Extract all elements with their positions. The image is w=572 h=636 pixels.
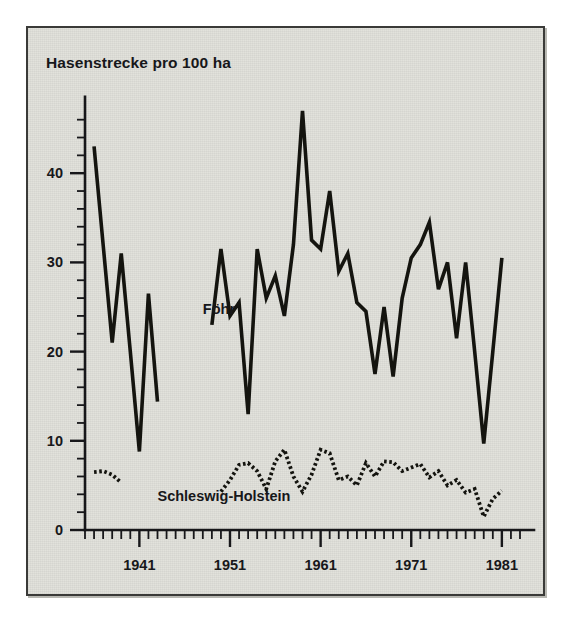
figure-root: Hasenstrecke pro 100 ha 0102030401941195…: [0, 0, 572, 636]
series-line-f-hr: [212, 111, 502, 444]
series-label-schleswig-holstein: Schleswig-Holstein: [158, 488, 291, 504]
series-line-schleswig-holstein: [94, 471, 121, 483]
y-tick-label: 0: [55, 522, 63, 538]
x-tick-label: 1961: [304, 557, 336, 573]
y-tick-label: 30: [47, 254, 63, 270]
y-tick-label: 40: [47, 165, 63, 181]
y-tick-label: 20: [47, 344, 63, 360]
series-layer: [94, 111, 502, 517]
chart-frame: Hasenstrecke pro 100 ha 0102030401941195…: [26, 26, 545, 596]
series-label-f-hr: Föhr: [203, 301, 236, 317]
series-line-schleswig-holstein: [221, 450, 502, 517]
x-tick-label: 1981: [486, 557, 518, 573]
x-tick-label: 1941: [123, 557, 155, 573]
line-chart-plot: 01020304019411951196119711981 FöhrSchles…: [28, 28, 547, 598]
x-tick-label: 1951: [214, 557, 246, 573]
series-line-f-hr: [94, 146, 157, 451]
x-tick-label: 1971: [395, 557, 427, 573]
y-tick-label: 10: [47, 433, 63, 449]
